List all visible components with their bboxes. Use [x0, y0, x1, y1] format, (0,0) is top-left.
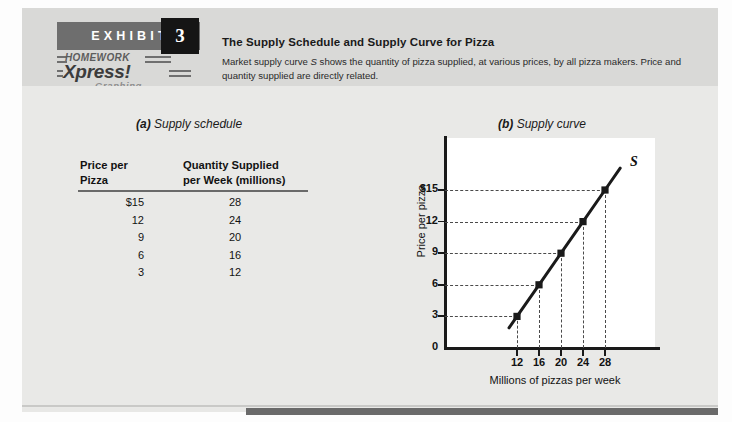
- chart-x-axis: [444, 347, 660, 350]
- table-header-price-line2: Pizza: [80, 173, 128, 188]
- table-header-price: Price per Pizza: [80, 158, 128, 187]
- chart-x-axis-title: Millions of pizzas per week: [440, 374, 670, 386]
- chart-dropline: [605, 190, 606, 348]
- chart-y-axis: [444, 136, 447, 350]
- x-axis-tick: [582, 348, 584, 356]
- y-axis-tick-label: 3: [398, 308, 438, 320]
- chart-gridline: [445, 190, 605, 191]
- cell-price: $15: [78, 196, 144, 208]
- page-margin-left: [0, 0, 22, 422]
- chart-gridline: [445, 222, 583, 223]
- exhibit-number-box: 3: [161, 18, 199, 54]
- supply-schedule-table: $15 28 12 24 9 20 6 16 3 12: [78, 196, 308, 284]
- chart-dropline: [539, 285, 540, 348]
- panel-b-letter: (b): [498, 117, 513, 131]
- table-header-rule: [78, 190, 308, 192]
- cell-price: 3: [78, 266, 144, 278]
- chart-dropline: [517, 316, 518, 348]
- logo-rule-decoration: [169, 70, 191, 72]
- logo-rule-decoration: [145, 61, 171, 63]
- cell-quantity: 20: [182, 231, 288, 243]
- chart-gridline: [445, 253, 561, 254]
- table-header-quantity-line1: Quantity Supplied: [183, 158, 285, 173]
- table-header-quantity-line2: per Week (millions): [183, 173, 285, 188]
- chart-y-axis-title: Price per pizza: [415, 166, 427, 276]
- x-axis-tick: [560, 348, 562, 356]
- logo-rule-decoration: [169, 75, 191, 77]
- chart-gridline: [445, 285, 539, 286]
- panel-a-letter: (a): [136, 117, 151, 131]
- page-bottom-bar: [246, 408, 718, 415]
- x-axis-tick-label: 28: [590, 356, 620, 368]
- x-axis-tick: [516, 348, 518, 356]
- exhibit-number-text: 3: [161, 18, 199, 54]
- caption-text-leading: Market supply curve: [222, 56, 311, 67]
- panel-b-title: Supply curve: [513, 117, 586, 131]
- supply-curve-label: S: [630, 154, 638, 170]
- cell-price: 6: [78, 249, 144, 261]
- table-row: 12 24: [78, 214, 308, 232]
- exhibit-caption: Market supply curve S shows the quantity…: [222, 55, 690, 82]
- panel-b-label: (b) Supply curve: [498, 117, 586, 131]
- exhibit-page: EXHIBIT 3 HOMEWORK Xpress! Graphing The …: [0, 0, 732, 422]
- chart-dropline: [583, 222, 584, 348]
- cell-quantity: 28: [182, 196, 288, 208]
- cell-price: 12: [78, 214, 144, 226]
- panel-a-label: (a) Supply schedule: [136, 117, 242, 131]
- panel-a-title: Supply schedule: [151, 117, 242, 131]
- exhibit-header-band: EXHIBIT 3 HOMEWORK Xpress! Graphing The …: [22, 8, 718, 86]
- x-axis-tick: [538, 348, 540, 356]
- x-axis-tick: [604, 348, 606, 356]
- page-margin-top: [0, 0, 732, 8]
- table-row: 3 12: [78, 266, 308, 284]
- exhibit-title: The Supply Schedule and Supply Curve for…: [222, 36, 494, 48]
- table-row: $15 28: [78, 196, 308, 214]
- cell-quantity: 16: [182, 249, 288, 261]
- cell-quantity: 24: [182, 214, 288, 226]
- y-axis-tick-label: 0: [398, 340, 438, 352]
- cell-price: 9: [78, 231, 144, 243]
- y-axis-tick-label: 6: [398, 277, 438, 289]
- chart-dropline: [561, 253, 562, 348]
- table-row: 9 20: [78, 231, 308, 249]
- page-margin-right: [718, 0, 732, 422]
- table-header-price-line1: Price per: [80, 158, 128, 173]
- logo-rule-decoration: [145, 56, 171, 58]
- page-shadow-line: [22, 405, 718, 407]
- chart-gridline: [445, 316, 517, 317]
- table-row: 6 16: [78, 249, 308, 267]
- cell-quantity: 12: [182, 266, 288, 278]
- table-header-quantity: Quantity Supplied per Week (millions): [183, 158, 285, 187]
